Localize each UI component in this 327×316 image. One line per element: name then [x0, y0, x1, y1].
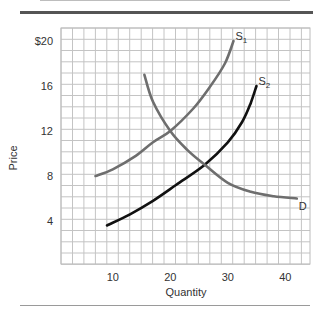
plot-frame [61, 28, 310, 264]
x-tick-label: 10 [107, 271, 119, 283]
x-tick-label: 30 [222, 271, 234, 283]
y-tick-label: 4 [47, 215, 53, 227]
y-tick-label: 12 [41, 125, 53, 137]
curve-label-d: D [299, 200, 307, 212]
y-axis-label: Price [7, 145, 19, 170]
y-tick-label: 8 [47, 170, 53, 182]
curve-label-s2: S2 [259, 75, 271, 90]
curve-d [144, 75, 296, 199]
supply-demand-chart: 481216$20 10203040 Price Quantity S1S2D [0, 0, 327, 316]
y-tick-label: 16 [41, 80, 53, 92]
x-axis-ticks: 10203040 [107, 271, 292, 283]
x-tick-label: 40 [279, 271, 291, 283]
curve-label-s1: S1 [236, 30, 248, 45]
x-tick-label: 20 [164, 271, 176, 283]
grid [61, 28, 310, 264]
curve-labels: S1S2D [236, 30, 307, 212]
y-tick-label: $20 [35, 35, 53, 47]
y-axis-ticks: 481216$20 [35, 35, 53, 227]
x-axis-label: Quantity [166, 286, 207, 298]
bottom-divider-rule [20, 305, 310, 306]
